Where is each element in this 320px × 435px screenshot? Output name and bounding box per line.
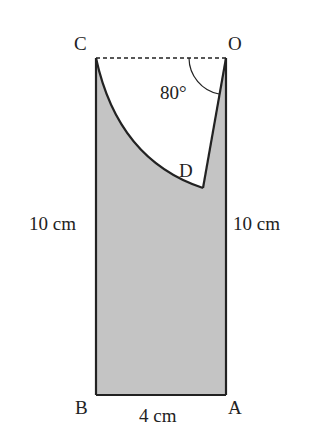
label-b: B <box>75 398 88 417</box>
label-c: C <box>74 34 87 53</box>
label-angle: 80° <box>160 83 187 102</box>
label-left-side: 10 cm <box>29 214 76 233</box>
label-d: D <box>179 161 193 180</box>
label-bottom-side: 4 cm <box>139 406 176 425</box>
label-right-side: 10 cm <box>233 214 280 233</box>
label-o: O <box>228 34 242 53</box>
label-a: A <box>228 398 242 417</box>
